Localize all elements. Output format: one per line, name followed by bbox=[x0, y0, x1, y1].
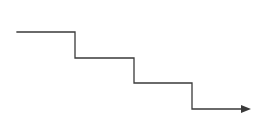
staircase-line bbox=[17, 32, 244, 109]
arrowhead-icon bbox=[241, 105, 251, 113]
staircase-diagram bbox=[0, 0, 265, 119]
